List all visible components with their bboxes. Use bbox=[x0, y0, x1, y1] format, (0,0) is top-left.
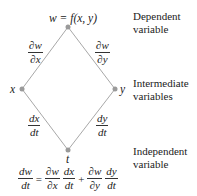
formula-dw-dt: dw dt bbox=[18, 166, 33, 191]
formula-dw-dx: ∂w ∂x bbox=[45, 166, 60, 191]
node-t-label: t bbox=[66, 153, 69, 165]
formula-dw-dy: ∂w ∂y bbox=[87, 166, 102, 191]
node-y bbox=[113, 87, 118, 92]
edge-label-dy-dt: dy dt bbox=[96, 113, 108, 138]
edge-label-dw-dx: ∂w ∂x bbox=[28, 40, 43, 65]
equals-sign: = bbox=[36, 173, 42, 185]
independent-variable-label: Independent variable bbox=[133, 145, 187, 171]
edge-label-dw-dy: ∂w ∂y bbox=[95, 40, 110, 65]
node-w-label: w = f(x, y) bbox=[49, 12, 97, 24]
dependent-variable-label: Dependent variable bbox=[133, 10, 181, 36]
fraction-numerator: dx bbox=[28, 113, 40, 126]
fraction-denominator: ∂x bbox=[30, 53, 40, 65]
intermediate-variables-label: Intermediate variables bbox=[133, 77, 189, 103]
fraction-denominator: dt bbox=[98, 126, 107, 138]
fraction-numerator: ∂w bbox=[95, 40, 110, 53]
node-y-label: y bbox=[120, 83, 125, 95]
formula-dy-dt: dy dt bbox=[105, 166, 117, 191]
fraction-numerator: dy bbox=[96, 113, 108, 126]
node-x-label: x bbox=[10, 83, 15, 95]
node-w bbox=[66, 25, 71, 30]
formula-dx-dt: dx dt bbox=[63, 166, 75, 191]
node-t bbox=[66, 148, 71, 153]
edge-label-dx-dt: dx dt bbox=[28, 113, 40, 138]
fraction-denominator: dt bbox=[30, 126, 39, 138]
fraction-numerator: ∂w bbox=[28, 40, 43, 53]
chain-rule-formula: dw dt = ∂w ∂x dx dt + ∂w ∂y dy dt bbox=[18, 166, 118, 191]
fraction-denominator: ∂y bbox=[97, 53, 107, 65]
plus-sign: + bbox=[78, 173, 84, 185]
node-x bbox=[20, 87, 25, 92]
